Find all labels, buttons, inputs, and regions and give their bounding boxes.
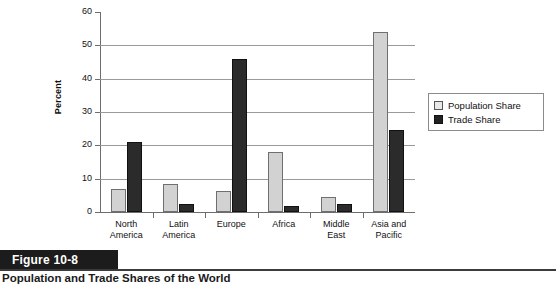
bar-trade-share-1 [179,204,194,212]
y-tick-50 [95,45,100,46]
y-axis-label-50: 50 [52,40,92,49]
bar-trade-share-0 [127,142,142,212]
x-tick-4 [310,213,311,218]
x-tick-3 [258,213,259,218]
bar-trade-share-2 [232,59,247,212]
y-tick-40 [95,79,100,80]
x-tick-5 [363,213,364,218]
gridline-10 [100,179,415,180]
x-category-label-5: Asia andPacific [357,219,422,241]
y-tick-0 [95,212,100,213]
y-axis-label-10: 10 [52,174,92,183]
plot-area [100,12,415,212]
x-category-label-line2-5: Pacific [357,230,422,241]
bar-population-share-5 [373,32,388,212]
y-tick-30 [95,112,100,113]
chart-legend: Population Share Trade Share [428,93,544,131]
gridline-30 [100,112,415,113]
x-category-label-line2-1: America [147,230,212,241]
y-tick-10 [95,179,100,180]
y-axis-label-40: 40 [52,74,92,83]
gridline-40 [100,79,415,80]
legend-label-trade-share: Trade Share [448,114,500,125]
y-tick-60 [95,12,100,13]
legend-item-population-share: Population Share [434,98,538,112]
y-axis-label-20: 20 [52,140,92,149]
bar-population-share-3 [268,152,283,212]
bar-population-share-4 [321,197,336,212]
y-axis-label-0: 0 [52,207,92,216]
bar-trade-share-5 [389,130,404,212]
y-tick-20 [95,145,100,146]
x-category-label-line1-5: Asia and [357,219,422,230]
gridline-20 [100,145,415,146]
figure-caption-title: Population and Trade Shares of the World [2,272,554,284]
y-axis-label-60: 60 [52,7,92,16]
legend-swatch-trade-share [434,115,443,124]
figure-chart-area: Percent 0102030405060 NorthAmericaLatinA… [0,0,556,245]
y-axis-label-30: 30 [52,107,92,116]
bar-trade-share-3 [284,206,299,212]
bar-population-share-2 [216,191,231,212]
bar-population-share-0 [111,189,126,212]
x-tick-1 [153,213,154,218]
y-axis-tick-labels: 0102030405060 [48,0,92,245]
legend-label-population-share: Population Share [448,100,521,111]
x-tick-2 [205,213,206,218]
bar-population-share-1 [163,184,178,212]
bar-trade-share-4 [337,204,352,212]
legend-swatch-population-share [434,101,443,110]
figure-number-label: Figure 10-8 [12,253,78,267]
gridline-50 [100,45,415,46]
legend-item-trade-share: Trade Share [434,112,538,126]
caption-divider-rule [0,269,556,271]
